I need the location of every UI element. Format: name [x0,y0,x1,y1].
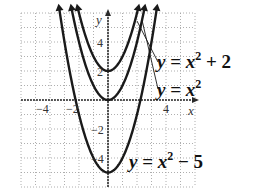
x-axis-name: x [188,104,194,117]
label-var: x [158,151,168,172]
y-tick-neg4: −4 [91,153,104,165]
x-tick-pos4: 4 [163,103,169,115]
arrowhead-icon [68,4,76,12]
y-axis-name: y [96,13,102,26]
label-var: x [186,51,196,72]
label-eq: = [137,151,157,172]
label-y-eq-x2-minus-5: y = x2 − 5 [129,150,203,171]
label-eq: = [165,79,185,100]
label-exp: 2 [195,77,201,91]
arrowhead-icon [75,4,83,12]
label-rest: − 5 [173,151,203,172]
x-tick-neg4: −4 [36,103,49,115]
arrowhead-icon [134,4,142,12]
label-var: x [186,79,196,100]
label-y-eq-x2-plus-2: y = x2 + 2 [157,50,231,71]
label-y-eq-x2: y = x2 [157,78,201,99]
y-tick-pos4: 4 [97,37,103,49]
y-tick-neg2: −2 [91,124,104,136]
arrowhead-icon [152,4,160,12]
arrowhead-icon [56,4,64,12]
x-tick-neg2: −2 [66,103,79,115]
arrowhead-icon [140,4,148,12]
label-eq: = [165,51,185,72]
y-tick-pos2: 2 [97,66,103,78]
y-axis-arrow-icon [105,9,111,16]
label-rest: + 2 [201,51,231,72]
